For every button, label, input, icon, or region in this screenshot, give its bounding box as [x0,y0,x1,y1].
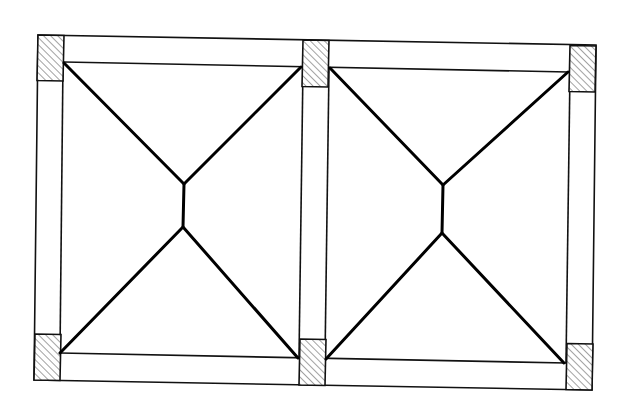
wall-left-inner [60,62,63,353]
yield-line-panels [60,63,568,363]
slab-plan-diagram [0,0,620,415]
yield-line-top [64,63,301,184]
beam-lines [60,62,570,363]
outer-frame-outline [34,35,596,390]
yield-line-top [330,68,568,185]
panel-left [60,63,301,358]
hatched-columns [34,35,596,390]
outer-frame [34,35,596,390]
col-top-middle [302,40,329,87]
yield-line-bottom [60,227,298,358]
col-bottom-left [34,334,61,381]
wall-mid-right [325,68,329,359]
col-bottom-right [566,344,593,391]
diagram-canvas: Two-bay slab plan with corner columns an… [0,0,620,415]
wall-right-inner [566,72,570,363]
yield-line-ridge [442,185,443,233]
col-bottom-middle [299,339,326,386]
yield-line-ridge [183,184,184,227]
col-top-left [37,35,64,81]
yield-line-bottom [326,233,564,363]
panel-right [326,68,568,363]
col-top-right [569,46,596,93]
wall-mid-left [299,67,303,358]
